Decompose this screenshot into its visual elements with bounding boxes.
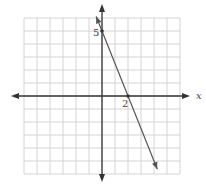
line-bottom-arrow-icon	[152, 162, 157, 170]
coordinate-graph: x 5 2	[0, 0, 206, 185]
y-intercept-point	[100, 29, 104, 33]
x-axis-label: x	[196, 90, 202, 101]
plotted-line	[96, 16, 157, 169]
x-axis-right-arrow-icon	[182, 93, 190, 99]
y-axis-up-arrow-icon	[99, 4, 105, 12]
x-axis-left-arrow-icon	[11, 93, 19, 99]
x-intercept-label: 2	[122, 98, 128, 109]
y-intercept-label: 5	[93, 27, 99, 38]
y-axis-down-arrow-icon	[99, 174, 105, 182]
